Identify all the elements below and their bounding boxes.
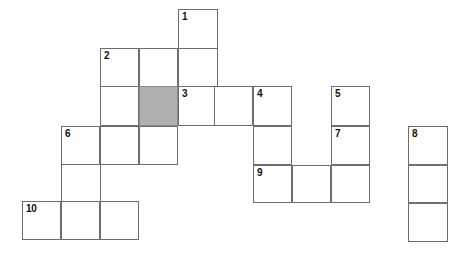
- cell-number: 8: [412, 128, 417, 139]
- crossword-grid: 12345678910: [0, 0, 470, 253]
- crossword-cell[interactable]: 6: [61, 126, 100, 165]
- crossword-cell[interactable]: 10: [22, 201, 61, 240]
- crossword-cell[interactable]: [253, 126, 292, 165]
- cell-number: 4: [257, 88, 262, 99]
- grid-connector-line: [61, 165, 62, 201]
- cell-number: 6: [65, 128, 70, 139]
- crossword-cell[interactable]: [178, 48, 218, 87]
- crossword-cell[interactable]: [408, 165, 448, 203]
- crossword-cell[interactable]: 2: [100, 48, 139, 87]
- crossword-cell[interactable]: [61, 201, 100, 240]
- crossword-cell[interactable]: [100, 126, 139, 165]
- crossword-cell[interactable]: [139, 48, 178, 87]
- crossword-cell[interactable]: 3: [178, 86, 218, 126]
- cell-number: 2: [104, 50, 109, 61]
- crossword-cell[interactable]: 4: [253, 86, 292, 126]
- crossword-cell[interactable]: 5: [331, 86, 370, 126]
- cell-number: 5: [335, 88, 340, 99]
- cell-number: 7: [335, 128, 340, 139]
- crossword-cell[interactable]: 9: [253, 165, 292, 203]
- crossword-cell[interactable]: 8: [408, 126, 448, 165]
- grid-connector-line: [100, 165, 101, 201]
- cell-number: 10: [26, 203, 37, 214]
- crossword-cell[interactable]: 7: [331, 126, 370, 165]
- cell-number: 1: [182, 11, 187, 22]
- crossword-cell[interactable]: [408, 203, 448, 242]
- crossword-cell-shaded[interactable]: [139, 86, 178, 126]
- crossword-cell[interactable]: 1: [178, 9, 218, 49]
- cell-number: 9: [257, 167, 262, 178]
- crossword-cell[interactable]: [100, 201, 139, 240]
- crossword-cell[interactable]: [214, 86, 253, 126]
- crossword-cell[interactable]: [331, 165, 370, 203]
- crossword-cell[interactable]: [139, 126, 178, 165]
- crossword-cell[interactable]: [292, 165, 331, 203]
- crossword-cell[interactable]: [100, 86, 139, 126]
- cell-number: 3: [182, 88, 187, 99]
